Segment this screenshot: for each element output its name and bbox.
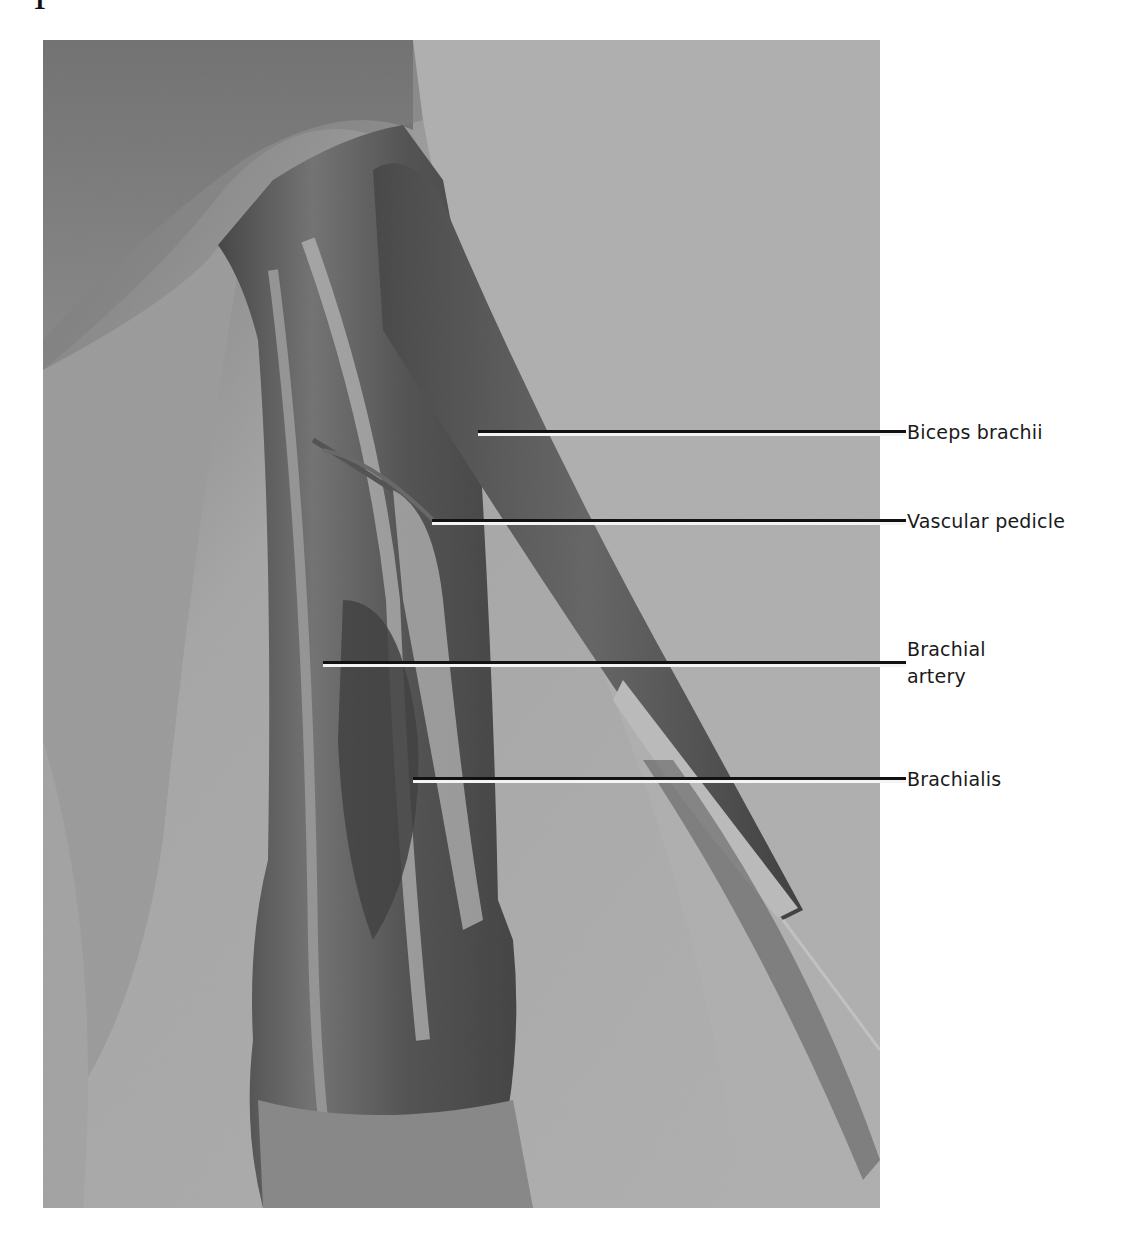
label-brachialis: Brachialis <box>907 767 1001 791</box>
leader-line-vascular-pedicle <box>432 519 906 522</box>
leader-line-biceps-brachii <box>478 430 906 433</box>
leader-line-brachialis <box>413 777 906 780</box>
dissection-photo <box>43 40 880 1208</box>
leader-line-brachial-artery <box>323 661 906 664</box>
page-marker: 1 <box>33 0 46 16</box>
label-brachial-artery-line2: artery <box>907 664 966 688</box>
label-biceps-brachii: Biceps brachii <box>907 420 1043 444</box>
label-vascular-pedicle: Vascular pedicle <box>907 509 1065 533</box>
label-brachial-artery-line1: Brachial <box>907 637 986 661</box>
